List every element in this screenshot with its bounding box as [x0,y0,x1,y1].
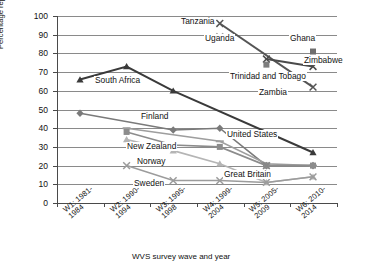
series-trinidad-and-tobago [263,62,269,68]
data-point-diamond [170,126,177,134]
series-label: Zambia [258,88,288,97]
data-point-square [217,144,223,150]
series-label: Finland [140,112,169,121]
series-label: Tanzania [180,17,216,26]
series-label: South Africa [94,76,141,85]
data-point-diamond [76,109,83,117]
data-point-square [310,49,316,55]
series-label: Zimbabwe [303,56,344,65]
series-label: Uganda [204,34,235,43]
series-label: Sweden [133,179,165,188]
data-point-square [310,163,316,169]
data-point-cross [310,84,317,91]
series-label: Great Britain [223,170,272,179]
series-finland [76,109,316,169]
series-label: Ghana [289,34,316,43]
data-point-cross [216,20,223,27]
series-label: New Zealand [126,142,177,151]
x-axis-title: WVS survey wave and year [132,252,230,261]
series-label: Norway [136,157,166,166]
chart-container: Percentage reporting that homosexuality … [0,0,368,273]
data-point-square [124,129,130,135]
series-label: United States [226,130,278,139]
series-label: Trinidad and Tobago [229,72,307,81]
series-ghana [310,49,316,55]
data-point-square [263,62,269,68]
